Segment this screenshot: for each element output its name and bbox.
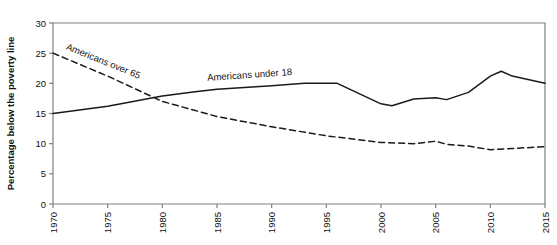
- series-line-americans-under-18: [53, 71, 545, 113]
- y-tick-label: 15: [35, 108, 46, 119]
- poverty-line-chart: 0510152025301970197519801985199019952000…: [0, 0, 557, 245]
- series-annotation-americans-under-18: Americans under 18: [207, 66, 293, 83]
- x-tick-label: 1975: [102, 212, 113, 233]
- x-tick-label: 1980: [157, 212, 168, 233]
- y-tick-label: 25: [35, 48, 46, 59]
- x-tick-label: 2005: [430, 212, 441, 233]
- plot-frame: [53, 23, 545, 204]
- y-tick-label: 10: [35, 138, 46, 149]
- x-tick-label: 1990: [266, 212, 277, 233]
- y-tick-label: 30: [35, 18, 46, 29]
- x-tick-label: 1970: [48, 212, 59, 233]
- chart-canvas: 0510152025301970197519801985199019952000…: [0, 0, 557, 245]
- y-axis-title: Percentage below the poverty line: [5, 37, 16, 191]
- x-tick-label: 2010: [485, 212, 496, 233]
- y-tick-label: 0: [41, 199, 46, 210]
- x-tick-label: 1985: [212, 212, 223, 233]
- y-tick-label: 5: [41, 168, 46, 179]
- x-tick-label: 2015: [540, 212, 551, 233]
- x-tick-label: 2000: [376, 212, 387, 233]
- y-tick-label: 20: [35, 78, 46, 89]
- x-tick-label: 1995: [321, 212, 332, 233]
